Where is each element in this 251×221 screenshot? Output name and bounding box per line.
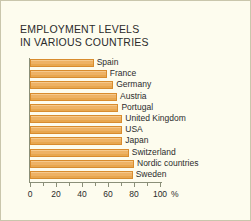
x-tick <box>82 183 83 187</box>
chart-figure: EMPLOYMENT LEVELS IN VARIOUS COUNTRIES S… <box>0 0 251 221</box>
bar <box>30 137 122 145</box>
bar <box>30 59 94 67</box>
x-tick-label: 0 <box>28 189 33 199</box>
x-tick <box>108 183 109 187</box>
bar-category-label: Switzerland <box>132 147 176 158</box>
bar-row: United Kingdom <box>30 115 160 123</box>
bar-row: France <box>30 70 160 78</box>
bar <box>30 160 134 168</box>
x-tick-label: 100 <box>153 189 167 199</box>
x-tick-label: 60 <box>103 189 112 199</box>
bar-row: Nordic countries <box>30 160 160 168</box>
bar-row: Austria <box>30 93 160 101</box>
x-tick <box>95 183 96 186</box>
x-axis-unit-label: % <box>171 189 179 199</box>
bar <box>30 171 133 179</box>
plot-area: SpainFranceGermanyAustriaPortugalUnited … <box>30 58 160 182</box>
bar-category-label: Austria <box>120 91 146 102</box>
x-tick <box>134 183 135 187</box>
bar <box>30 81 113 89</box>
bar-category-label: Nordic countries <box>137 158 198 169</box>
bar-row: Switzerland <box>30 149 160 157</box>
bar-category-label: Japan <box>125 135 148 146</box>
x-tick <box>69 183 70 186</box>
bar-category-label: Spain <box>97 57 119 68</box>
x-tick <box>121 183 122 186</box>
bar <box>30 115 122 123</box>
bar <box>30 149 129 157</box>
bar-category-label: Sweden <box>136 169 167 180</box>
bar-row: Spain <box>30 59 160 67</box>
x-tick <box>56 183 57 187</box>
bar-category-label: USA <box>125 124 142 135</box>
chart-title: EMPLOYMENT LEVELS IN VARIOUS COUNTRIES <box>20 23 220 48</box>
x-tick <box>30 183 31 187</box>
bar <box>30 104 118 112</box>
x-tick <box>147 183 148 186</box>
bar-category-label: Germany <box>116 79 151 90</box>
x-tick <box>43 183 44 186</box>
x-tick-label: 40 <box>77 189 86 199</box>
bar <box>30 126 122 134</box>
x-tick-label: 20 <box>51 189 60 199</box>
bar-category-label: Portugal <box>121 102 153 113</box>
x-tick-label: 80 <box>129 189 138 199</box>
bar-row: Japan <box>30 137 160 145</box>
bar-row: Sweden <box>30 171 160 179</box>
bar-category-label: United Kingdom <box>125 113 185 124</box>
bar-row: Germany <box>30 81 160 89</box>
bar-row: USA <box>30 126 160 134</box>
bar <box>30 93 117 101</box>
bar-row: Portugal <box>30 104 160 112</box>
x-tick <box>160 183 161 187</box>
bar <box>30 70 107 78</box>
bar-category-label: France <box>110 68 136 79</box>
